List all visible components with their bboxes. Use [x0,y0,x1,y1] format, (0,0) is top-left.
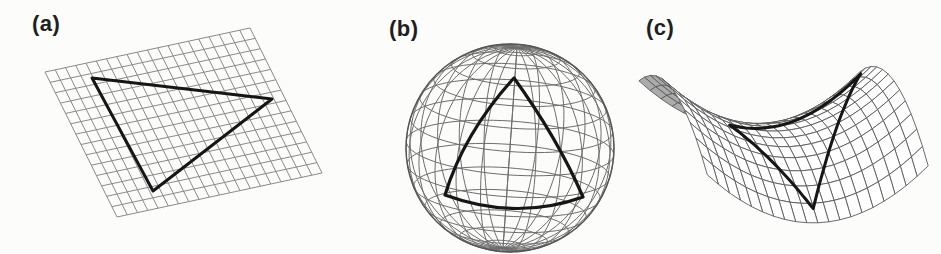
sphere-drawing [406,44,614,252]
flat-plane-drawing [45,28,322,217]
saddle-drawing [639,67,928,223]
panel-c-label: (c) [646,15,674,41]
figure-canvas: (a) (b) (c) [0,0,941,254]
panel-b-label: (b) [389,16,419,42]
figure-svg [0,0,941,254]
panel-a-label: (a) [32,11,60,37]
